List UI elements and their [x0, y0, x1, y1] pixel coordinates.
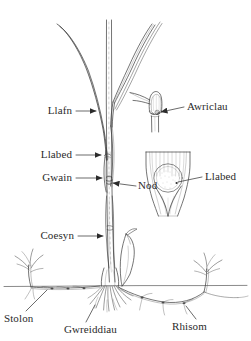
label-coesyn: Coesyn: [40, 230, 74, 241]
tiller-shoot: [120, 229, 137, 286]
leader-awriclau: [161, 107, 184, 112]
label-awriclau: Awriclau: [187, 101, 228, 112]
auricle-inset-drawing: [130, 92, 162, 132]
label-stolon: Stolon: [4, 313, 33, 324]
stolon: [15, 249, 100, 299]
leaf-blade-left: [57, 24, 107, 161]
rhizome: [118, 253, 248, 315]
label-llabed-inset: Llabed: [205, 171, 236, 182]
roots: [88, 286, 133, 312]
plant-crown: [101, 268, 118, 286]
leader-llabed-2: [178, 177, 202, 182]
label-gwain: Gwain: [42, 172, 72, 183]
leader-gwreiddiau: [86, 305, 95, 322]
label-rhisom: Rhisom: [172, 321, 207, 332]
leader-stolon: [26, 290, 47, 311]
label-gwreiddiau: Gwreiddiau: [64, 324, 117, 335]
label-llafn: Llafn: [48, 105, 72, 116]
label-llabed: Llabed: [41, 149, 72, 160]
leaf-blade-right-upper: [115, 22, 162, 110]
soil-line: [4, 285, 247, 286]
leader-nod: [113, 183, 136, 186]
leaf-blade-right: [111, 24, 155, 127]
grass-anatomy-figure: Llafn Llabed Gwain Nod Coesyn Awriclau L…: [0, 0, 251, 341]
leader-rhisom: [186, 306, 196, 319]
label-nod: Nod: [138, 180, 157, 191]
